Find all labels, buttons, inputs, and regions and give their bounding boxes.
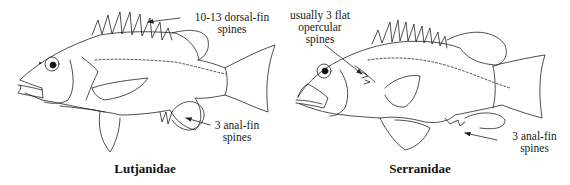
label-dorsal-fin-spines: 10-13 dorsal-fin spines [182, 11, 282, 35]
label-serranidae-anal-fin-spines: 3 anal-fin spines [502, 130, 567, 154]
arrow-dorsal-spines [148, 18, 180, 22]
label-opercular-spines: usually 3 flat opercular spines [280, 9, 360, 45]
label-lutjanidae-anal-fin-spines: 3 anal-fin spines [207, 119, 267, 143]
caption-serranidae: Serranidae [375, 161, 465, 177]
caption-lutjanidae: Lutjanidae [100, 161, 190, 177]
arrow-anal-spines-right [465, 133, 497, 140]
